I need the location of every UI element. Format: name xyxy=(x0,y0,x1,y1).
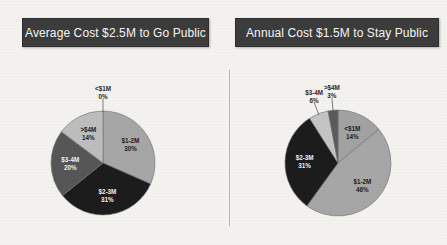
pie-label-category: $2-3M xyxy=(296,154,314,162)
chart-title-go-public: Average Cost $2.5M to Go Public xyxy=(25,26,206,40)
pie-chart-stay-public: <$1M14%$1-2M46%$2-3M31%$3-4M6%>$4M3% xyxy=(224,50,447,245)
pie-label-category: $1-2M xyxy=(122,137,140,145)
pie-label-value: 14% xyxy=(346,133,359,140)
pie-label-category: <$1M xyxy=(344,125,360,133)
pie-label-category: >$4M xyxy=(80,126,96,134)
label-leader-line xyxy=(314,103,319,115)
panel-stay-public: Annual Cost $1.5M to Stay Public <$1M14%… xyxy=(224,0,447,245)
chart-title-stay-public: Annual Cost $1.5M to Stay Public xyxy=(246,26,428,40)
pie-label-category: $1-2M xyxy=(353,178,371,186)
chart-title-box-stay-public: Annual Cost $1.5M to Stay Public xyxy=(235,18,439,47)
pie-label-value: 31% xyxy=(298,162,311,169)
pie-label-value: 3% xyxy=(327,92,337,99)
pie-label-value: 6% xyxy=(310,97,320,104)
pie-label-category: $2-3M xyxy=(98,188,116,196)
pie-label-value: 0% xyxy=(98,93,108,100)
pie-label-value: 14% xyxy=(82,134,95,141)
pie-label-value: 46% xyxy=(356,186,369,193)
pie-label-value: 30% xyxy=(124,145,137,152)
pie-label-value: 31% xyxy=(101,196,114,203)
slide-canvas: Average Cost $2.5M to Go Public <$1M0%$1… xyxy=(0,0,447,245)
pie-label-category: $3-4M xyxy=(61,156,79,164)
pie-label-category: <$1M xyxy=(95,85,111,93)
panel-go-public: Average Cost $2.5M to Go Public <$1M0%$1… xyxy=(0,0,223,245)
pie-label-category: $3-4M xyxy=(305,89,323,97)
chart-title-box-go-public: Average Cost $2.5M to Go Public xyxy=(22,18,209,47)
pie-label-category: >$4M xyxy=(324,84,340,92)
pie-chart-go-public: <$1M0%$1-2M30%$2-3M31%$3-4M20%>$4M14% xyxy=(0,50,223,245)
label-leader-line xyxy=(332,98,333,111)
pie-label-value: 20% xyxy=(64,164,77,171)
